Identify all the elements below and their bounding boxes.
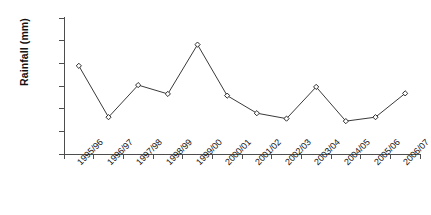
series-markers <box>76 42 408 124</box>
series-line-rainfall <box>79 45 405 122</box>
data-point-marker <box>254 111 259 116</box>
data-point-marker <box>195 42 200 47</box>
data-point-marker <box>76 63 81 68</box>
data-point-marker <box>225 93 230 98</box>
data-point-marker <box>165 91 170 96</box>
